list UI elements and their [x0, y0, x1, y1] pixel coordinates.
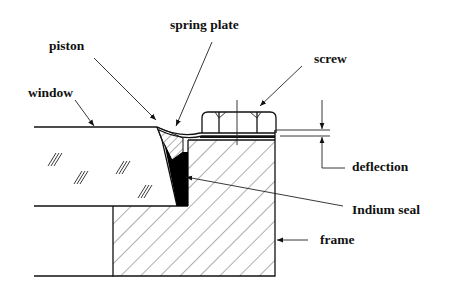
diagram-canvas: piston spring plate screw window deflect… — [0, 0, 452, 296]
label-indium-seal: Indium seal — [352, 202, 420, 217]
label-window: window — [28, 85, 73, 100]
deflection-marker — [322, 100, 345, 168]
label-piston: piston — [49, 38, 85, 53]
label-screw: screw — [314, 51, 347, 66]
piston-leader-arrow — [94, 58, 156, 120]
screw-leader-arrow — [260, 66, 302, 106]
label-frame: frame — [320, 232, 354, 247]
label-deflection: deflection — [352, 159, 409, 174]
spring-plate-leader-arrow — [176, 42, 212, 126]
screw-head — [202, 100, 276, 145]
window-leader-arrow — [75, 100, 94, 126]
label-spring-plate: spring plate — [170, 17, 239, 32]
